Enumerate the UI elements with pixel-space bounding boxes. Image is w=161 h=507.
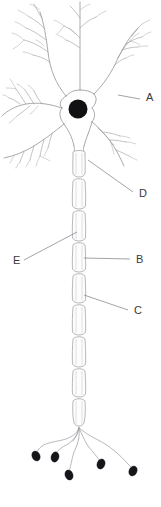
myelin-segment-4 (72, 243, 85, 272)
leader-line-A (118, 95, 140, 99)
myelin-segment-1 (73, 151, 85, 178)
dendrite-middle-left (2, 79, 62, 123)
leader-line-C (84, 295, 128, 310)
label-c: C (134, 304, 142, 316)
myelin-segment-8 (72, 369, 85, 397)
myelin-segment-5 (72, 274, 85, 303)
axon-group (72, 146, 85, 426)
label-b: B (136, 253, 143, 265)
myelin-segment-6 (72, 305, 85, 335)
leader-line-B (84, 258, 130, 259)
myelin-segment-3 (72, 211, 85, 241)
label-a: A (146, 91, 154, 103)
dendrite-group (2, 2, 151, 168)
synaptic-bouton-5 (127, 465, 139, 478)
dendrite-upper-middle (54, 2, 106, 90)
leader-line-D (88, 160, 133, 192)
dendrite-lower-left (4, 124, 64, 168)
myelin-segment-7 (72, 337, 85, 367)
dendrite-upper-right (94, 20, 151, 94)
myelin-segment-2 (72, 179, 85, 209)
nucleus (69, 100, 88, 119)
neuron-diagram-canvas: A D E B C (0, 0, 161, 507)
synaptic-bouton-3 (63, 469, 74, 482)
synaptic-bouton-1 (30, 450, 42, 463)
label-e: E (13, 254, 20, 266)
dendrite-upper-left (12, 4, 66, 96)
label-d: D (139, 187, 147, 199)
leader-line-E (24, 232, 77, 260)
axon-terminal-group (30, 427, 139, 481)
synaptic-bouton-4 (95, 458, 106, 471)
dendrite-lower-right (92, 122, 137, 166)
myelin-segment-9 (73, 399, 86, 426)
synaptic-bouton-2 (50, 451, 60, 463)
neuron-diagram-page: A D E B C (0, 0, 161, 507)
